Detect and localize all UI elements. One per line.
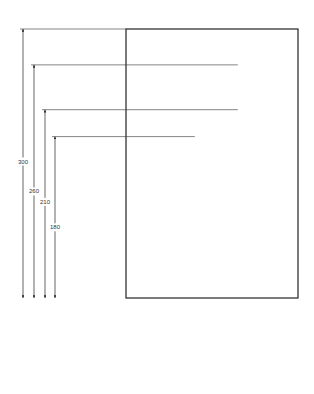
plate-outline bbox=[126, 29, 298, 298]
vertical-dimensions: 300260210180 bbox=[17, 29, 238, 298]
dim-label-v: 180 bbox=[50, 224, 61, 230]
dim-label-v: 300 bbox=[18, 159, 29, 165]
dim-label-v: 260 bbox=[29, 188, 40, 194]
technical-drawing: 300260210180 bbox=[0, 0, 314, 394]
dim-label-v: 210 bbox=[40, 199, 51, 205]
